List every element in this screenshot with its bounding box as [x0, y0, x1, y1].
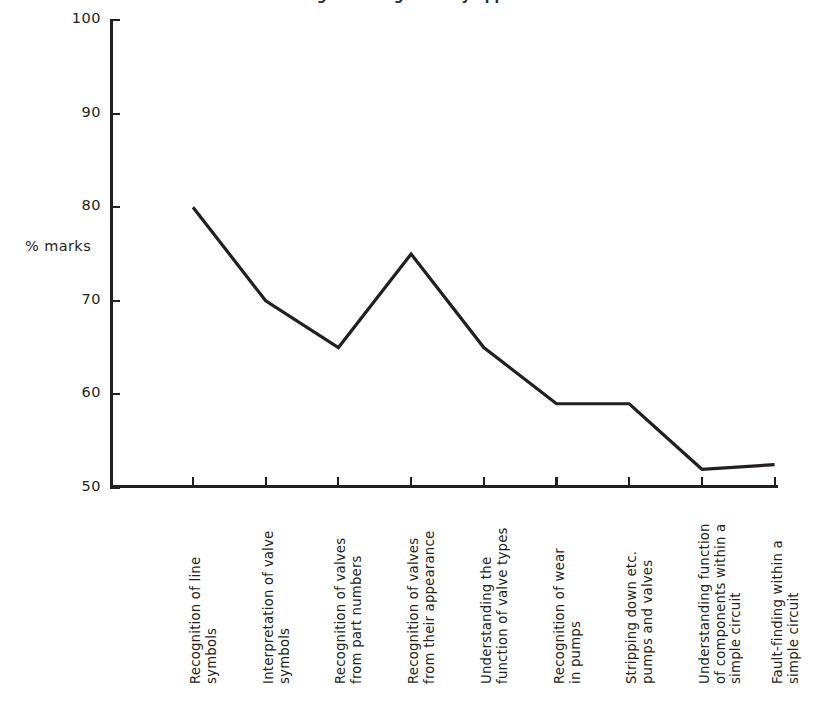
chart-title: Percentage marks gained by apprentices	[0, 0, 815, 3]
x-category-label-3: Recognition of valves from part numbers	[333, 498, 364, 684]
x-category-label-5: Understanding the function of valve type…	[479, 498, 510, 684]
data-series-line	[110, 20, 778, 488]
x-category-label-4: Recognition of valves from their appeara…	[406, 498, 437, 684]
chart-page: Percentage marks gained by apprentices %…	[0, 0, 815, 707]
x-category-label-6: Recognition of wear in pumps	[552, 498, 583, 684]
y-axis-label: % marks	[25, 238, 91, 254]
plot-area: 1009080706050	[110, 20, 778, 488]
y-tick-label-60: 60	[82, 384, 101, 400]
y-tick-label-100: 100	[72, 10, 101, 26]
x-category-label-9: Fault-finding within a simple circuit	[770, 498, 801, 684]
x-axis-category-labels: Recognition of line symbolsInterpretatio…	[110, 498, 810, 698]
x-category-label-2: Interpretation of valve symbols	[261, 498, 292, 684]
x-category-label-1: Recognition of line symbols	[188, 498, 219, 684]
y-tick-label-70: 70	[82, 291, 101, 307]
y-tick-label-90: 90	[82, 104, 101, 120]
x-category-label-7: Stripping down etc. pumps and valves	[624, 498, 655, 684]
y-tick-label-80: 80	[82, 197, 101, 213]
y-tick-label-50: 50	[82, 478, 101, 494]
x-category-label-8: Understanding function of components wit…	[697, 498, 744, 684]
